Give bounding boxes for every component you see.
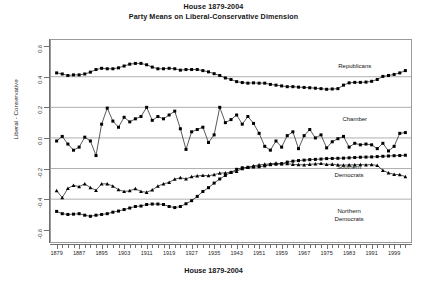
page-title: House 1879-2004 [0,2,427,12]
data-point [55,189,59,193]
x-axis-tick [68,245,69,248]
x-axis-tick [394,245,395,249]
data-point [66,74,69,77]
data-point [111,120,114,123]
data-point [286,134,289,137]
x-axis-tick [242,245,243,248]
data-point [156,184,160,188]
x-axis-tick [372,245,373,249]
x-axis-tick [321,245,322,248]
data-point [178,176,182,180]
data-point [66,187,70,191]
data-point [173,110,176,113]
x-axis-tick [360,245,361,248]
data-point [325,146,328,149]
data-point [185,68,188,71]
data-point [213,182,216,185]
x-axis-tick [310,245,311,248]
data-point [246,82,249,85]
data-point [286,161,289,164]
data-point [308,128,311,131]
data-point [269,163,272,166]
data-point [280,146,283,149]
y-axis-tick [44,46,49,47]
x-axis-tick [147,245,148,249]
x-axis-tick [175,245,176,248]
x-axis-tick [400,245,401,248]
series-label-republicans: Republicans [327,63,383,71]
data-point [365,81,368,84]
page-subtitle: Party Means on Liberal-Conservative Dime… [0,12,427,22]
x-axis-tick [265,245,266,248]
data-point [387,74,390,77]
data-point [207,70,210,73]
x-axis-tick [287,245,288,248]
data-point [61,72,64,75]
data-point [128,120,131,123]
data-point [196,128,199,131]
x-axis-tick [389,245,390,248]
data-point [393,154,396,157]
data-point [320,133,323,136]
data-point [185,202,188,205]
data-point [145,203,148,206]
data-point [83,72,86,75]
x-axis-tick [259,245,260,249]
x-axis-tick [79,245,80,249]
data-point [95,214,98,217]
data-point [280,84,283,87]
data-point [263,164,266,167]
x-axis-tick [119,245,120,248]
data-point [123,65,126,68]
data-point [162,67,165,70]
data-point [66,143,69,146]
data-point [224,76,227,79]
data-point [365,156,368,159]
data-point [106,67,109,70]
data-point [376,78,379,81]
data-point [140,205,143,208]
y-axis-tick-label: 0.0 [37,137,43,167]
data-point [218,74,221,77]
data-point [100,213,103,216]
data-point [123,116,126,119]
data-point [83,136,86,139]
series-chamber [55,106,407,157]
data-point [387,171,391,175]
data-point [336,137,339,140]
data-point [280,162,283,165]
x-axis-tick [214,245,215,249]
data-point [269,83,272,86]
data-point [134,62,137,65]
data-point [331,140,334,143]
data-point [72,149,75,152]
data-point [156,203,159,206]
data-point [291,130,294,133]
y-axis-tick [44,77,49,78]
data-point [398,71,401,74]
data-point [331,157,334,160]
data-point [66,213,69,216]
x-axis-tick [203,245,204,248]
data-point [269,149,272,152]
y-axis-tick [44,107,49,108]
data-point [241,123,244,126]
data-point [291,160,294,163]
x-axis-title: House 1879-2004 [0,266,427,275]
x-axis-tick [282,245,283,249]
data-point [162,117,165,120]
data-point [348,146,351,149]
data-point [117,210,120,213]
y-axis-tick [44,199,49,200]
data-point [72,213,75,216]
data-point [88,186,92,190]
data-point [95,68,98,71]
data-point [297,147,300,150]
data-point [185,148,188,151]
data-point [252,81,255,84]
data-point [336,157,339,160]
data-point [89,215,92,218]
data-point [117,126,120,129]
data-point [151,66,154,69]
data-point [151,203,154,206]
